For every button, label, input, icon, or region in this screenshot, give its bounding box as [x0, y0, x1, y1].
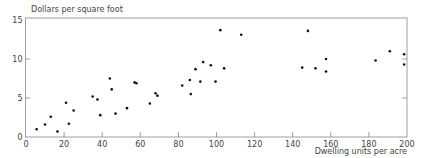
- data-point: [68, 122, 71, 125]
- data-point: [189, 79, 192, 82]
- data-point: [149, 102, 152, 105]
- data-point: [154, 92, 157, 95]
- data-point: [156, 94, 159, 97]
- data-point: [91, 95, 94, 98]
- x-axis-label: Dwelling units per acre: [315, 147, 407, 156]
- data-point: [114, 112, 117, 115]
- data-point: [49, 115, 52, 118]
- data-point: [65, 101, 68, 104]
- x-tick-label: 60: [135, 140, 145, 149]
- x-tick-label: 120: [247, 140, 262, 149]
- y-tick-label: 10: [12, 55, 22, 64]
- data-points: [35, 29, 405, 133]
- data-point: [135, 82, 138, 85]
- data-point: [56, 130, 59, 133]
- data-point: [403, 53, 406, 56]
- x-tick-label: 140: [285, 140, 300, 149]
- data-point: [109, 77, 112, 80]
- plot-border: [26, 18, 408, 137]
- data-point: [325, 70, 328, 73]
- data-point: [403, 63, 406, 66]
- data-point: [314, 67, 317, 70]
- data-point: [110, 88, 113, 91]
- data-point: [223, 67, 226, 70]
- data-point: [199, 80, 202, 83]
- data-point: [96, 98, 99, 101]
- data-point: [189, 93, 192, 96]
- y-axis-label: Dollars per square foot: [31, 5, 123, 14]
- data-point: [44, 123, 47, 126]
- data-point: [301, 66, 304, 69]
- data-point: [214, 80, 217, 83]
- x-tick-label: 80: [173, 140, 183, 149]
- data-point: [209, 64, 212, 67]
- x-tick-label: 0: [23, 140, 28, 149]
- scatter-chart: 020406080100120140160180200051015 Dollar…: [0, 0, 424, 158]
- data-point: [325, 58, 328, 61]
- axis-ticks: 020406080100120140160180200051015: [12, 16, 414, 149]
- data-point: [35, 128, 38, 131]
- data-point: [240, 34, 243, 37]
- y-tick-label: 15: [12, 16, 22, 25]
- data-point: [72, 109, 75, 112]
- x-tick-label: 20: [59, 140, 69, 149]
- data-point: [202, 61, 205, 64]
- y-tick-label: 0: [17, 133, 22, 142]
- x-tick-label: 40: [97, 140, 107, 149]
- x-tick-label: 100: [209, 140, 224, 149]
- data-point: [219, 29, 222, 32]
- data-point: [99, 114, 102, 117]
- data-point: [307, 30, 310, 33]
- data-point: [194, 68, 197, 71]
- data-point: [374, 59, 377, 62]
- data-point: [389, 50, 392, 53]
- data-point: [181, 84, 184, 87]
- y-tick-label: 5: [17, 94, 22, 103]
- data-point: [126, 107, 129, 110]
- plot-frame: [26, 18, 408, 137]
